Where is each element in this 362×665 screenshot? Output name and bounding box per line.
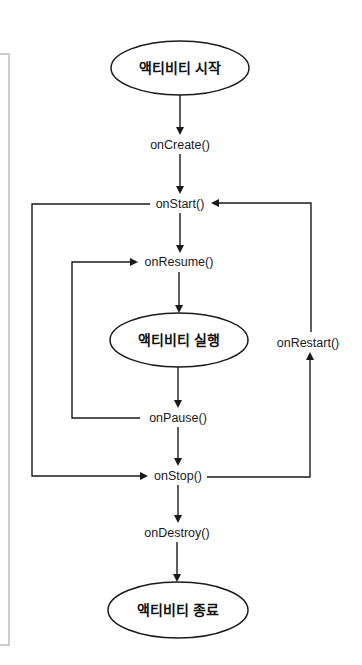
lifecycle-diagram: 액티비티 시작 액티비티 실행 액티비티 종료 onCreate() onSta… (0, 0, 362, 665)
state-activity-end: 액티비티 종료 (108, 582, 248, 638)
arrow-onstop-to-onrestart (207, 354, 310, 477)
state-activity-start: 액티비티 시작 (111, 41, 249, 95)
state-activity-running: 액티비티 실행 (110, 313, 248, 367)
callback-onstop: onStop() (154, 469, 202, 483)
state-label-running: 액티비티 실행 (138, 332, 221, 348)
page-border-bracket (0, 54, 9, 645)
callback-oncreate: onCreate() (150, 138, 210, 152)
callback-ondestroy: onDestroy() (144, 526, 209, 540)
state-label-start: 액티비티 시작 (139, 60, 222, 76)
callback-onstart: onStart() (156, 197, 205, 211)
arrow-onrestart-to-onstart (213, 203, 311, 332)
callback-onpause: onPause() (149, 411, 207, 425)
state-label-end: 액티비티 종료 (137, 602, 220, 618)
callback-onresume: onResume() (145, 255, 214, 269)
callback-onrestart: onRestart() (277, 336, 340, 350)
